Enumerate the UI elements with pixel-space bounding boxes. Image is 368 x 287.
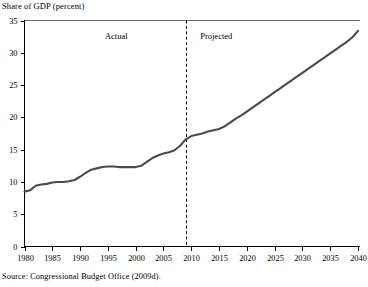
y-tick-label: 0 [13, 243, 17, 252]
chart-container: Share of GDP (percent) 05101520253035 19… [0, 0, 368, 287]
x-tick-label: 2000 [128, 254, 145, 263]
x-tick-label: 2040 [350, 254, 367, 263]
x-tick-label: 2010 [183, 254, 200, 263]
y-tick-label: 30 [9, 49, 17, 58]
x-tick-label: 1985 [44, 254, 61, 263]
x-tick-label: 2025 [267, 254, 284, 263]
chart-axes [24, 20, 360, 247]
x-tick-label: 2015 [211, 254, 228, 263]
y-tick-label: 20 [9, 113, 17, 122]
region-label-projected: Projected [200, 31, 233, 41]
x-tick-label: 2005 [155, 254, 172, 263]
y-tick-label: 5 [13, 210, 17, 219]
x-tick-label: 1995 [100, 254, 117, 263]
data-series-line [25, 31, 359, 192]
chart-annotations: ActualProjected [105, 31, 233, 41]
chart-plot-area: 05101520253035 1980198519901995200020052… [0, 0, 368, 265]
y-tick-label: 25 [9, 81, 17, 90]
y-tick-label: 35 [9, 17, 17, 26]
y-tick-label: 15 [9, 146, 17, 155]
x-tick-label: 1980 [17, 254, 34, 263]
x-axis-ticks: 1980198519901995200020052010201520202025… [17, 247, 367, 264]
y-tick-label: 10 [9, 178, 17, 187]
source-note: Source: Congressional Budget Office (200… [2, 271, 161, 282]
x-tick-label: 2020 [239, 254, 256, 263]
x-tick-label: 2035 [322, 254, 339, 263]
x-tick-label: 2030 [294, 254, 311, 263]
region-label-actual: Actual [105, 31, 128, 41]
y-axis-ticks: 05101520253035 [9, 17, 24, 252]
x-tick-label: 1990 [72, 254, 89, 263]
